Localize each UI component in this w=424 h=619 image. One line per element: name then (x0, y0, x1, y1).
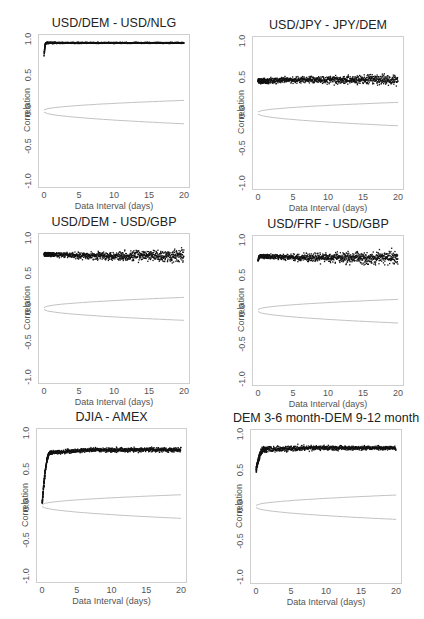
correlation-points (256, 444, 397, 473)
scatter-plot (0, 0, 424, 619)
confidence-band-line (256, 495, 396, 505)
confidence-band-line (256, 508, 396, 520)
